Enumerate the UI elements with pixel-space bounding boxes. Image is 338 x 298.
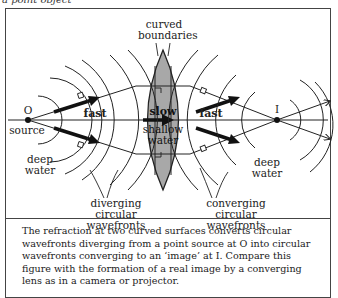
figure-caption: The refraction at two curved surfaces co…: [22, 225, 322, 288]
curved-boundaries-label: curved boundaries: [138, 19, 190, 41]
caption-separator: [5, 218, 331, 219]
fast-label-left: fast: [80, 108, 110, 119]
image-point-label-i: I: [271, 104, 283, 115]
source-point-o: [25, 117, 31, 123]
source-point-label-o: O: [22, 105, 34, 116]
deep-water-label-right: deep water: [245, 157, 289, 179]
shallow-water-label: shallow water: [140, 124, 186, 146]
fast-label-right: fast: [196, 108, 226, 119]
slow-label: slow: [145, 106, 181, 117]
deep-water-label-left: deep water: [18, 154, 62, 176]
image-point-i: [274, 117, 280, 123]
source-label: source: [4, 125, 50, 136]
